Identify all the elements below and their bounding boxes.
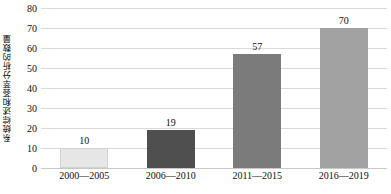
y-axis-tick-label: 0 (32, 163, 37, 174)
x-axis-tick-label: 2011—2015 (214, 170, 301, 181)
y-axis-tick-label: 20 (27, 123, 37, 134)
bar-slot: 70 (301, 8, 388, 168)
bar-value-label: 57 (252, 41, 262, 52)
y-axis-tick-label: 50 (27, 63, 37, 74)
bar-slot: 19 (128, 8, 215, 168)
bar-value-label: 19 (166, 117, 176, 128)
bar[interactable] (60, 148, 108, 168)
bar[interactable] (320, 28, 368, 168)
y-axis-tick-label: 60 (27, 43, 37, 54)
bar-value-label: 10 (79, 135, 89, 146)
x-axis-tick-labels: 2000—20052006—20102011—20152016—2019 (41, 170, 387, 190)
bar-slot: 10 (41, 8, 128, 168)
bar[interactable] (147, 130, 195, 168)
gridline (41, 168, 387, 169)
y-axis-tick-label: 40 (27, 83, 37, 94)
bar-slot: 57 (214, 8, 301, 168)
bar-chart: 系统综述和荟萃分析的数量 01020304050607080 10195770 … (0, 0, 391, 194)
bar-value-label: 70 (339, 15, 349, 26)
bar[interactable] (233, 54, 281, 168)
y-axis-tick-labels: 01020304050607080 (16, 0, 40, 175)
y-axis-title: 系统综述和荟萃分析的数量 (0, 0, 16, 175)
y-axis-title-text: 系统综述和荟萃分析的数量 (4, 34, 13, 142)
y-axis-tick-label: 70 (27, 23, 37, 34)
y-axis-tick-label: 10 (27, 143, 37, 154)
x-axis-tick-label: 2016—2019 (301, 170, 388, 181)
y-axis-tick-label: 80 (27, 3, 37, 14)
bars-layer: 10195770 (41, 8, 387, 168)
plot-area: 10195770 (41, 8, 387, 168)
x-axis-tick-label: 2006—2010 (128, 170, 215, 181)
x-axis-tick-label: 2000—2005 (41, 170, 128, 181)
y-axis-tick-label: 30 (27, 103, 37, 114)
